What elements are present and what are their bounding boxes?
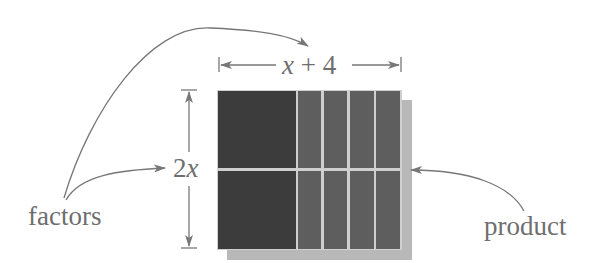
product-arrow xyxy=(411,170,524,211)
height-variable: x xyxy=(187,153,199,183)
width-label: x + 4 xyxy=(282,52,336,79)
tile-x-3 xyxy=(350,91,374,168)
tile-x-4 xyxy=(376,91,400,168)
tile-x-6 xyxy=(324,171,347,249)
product-label: product xyxy=(484,213,566,240)
tile-x-squared-1 xyxy=(218,91,296,168)
width-variable: x xyxy=(282,50,294,80)
tile-x-8 xyxy=(376,171,400,249)
area-model-diagram: x + 4 2x factors product xyxy=(0,0,607,263)
width-constant: + 4 xyxy=(301,50,336,80)
tile-x-7 xyxy=(350,171,374,249)
factors-arrow-to-height xyxy=(66,168,165,200)
tile-x-2 xyxy=(324,91,347,168)
factors-label: factors xyxy=(28,203,101,230)
tile-x-1 xyxy=(298,91,321,168)
tile-x-5 xyxy=(298,171,321,249)
tile-x-squared-2 xyxy=(218,171,296,249)
height-label: 2x xyxy=(173,155,198,182)
height-coefficient: 2 xyxy=(173,153,187,183)
